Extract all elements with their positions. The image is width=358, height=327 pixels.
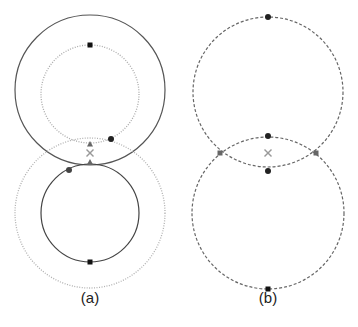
marker-b-cross-6-cross-icon	[265, 150, 272, 157]
marker-b-dot-0-dot-icon	[265, 14, 271, 20]
circle-b-upper-dashed	[193, 17, 343, 167]
marker-a-cross-6-cross-icon	[87, 150, 94, 157]
diagram-canvas	[0, 0, 358, 327]
marker-a-square-1-square-icon	[88, 260, 93, 265]
marker-b-square-5-square-icon	[314, 151, 319, 156]
marker-a-triangle-4-triangle-icon	[87, 141, 93, 147]
marker-a-dot-2-dot-icon	[108, 136, 114, 142]
panel-a-label: (a)	[60, 289, 120, 306]
marker-b-dot-1-dot-icon	[265, 133, 271, 139]
marker-a-square-0-square-icon	[88, 43, 93, 48]
marker-b-square-4-square-icon	[218, 151, 223, 156]
circle-a-inner-dotted-top	[41, 45, 139, 143]
circle-b-lower-dashed	[192, 137, 344, 289]
marker-a-dot-3-dot-icon	[66, 167, 72, 173]
marker-a-triangle-5-triangle-icon	[87, 159, 93, 165]
circle-a-inner-solid-bottom	[41, 164, 139, 262]
marker-b-dot-2-dot-icon	[265, 168, 271, 174]
panel-b-label: (b)	[238, 289, 298, 306]
